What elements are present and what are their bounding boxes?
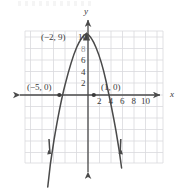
- vertex-label: (−2, 9): [41, 33, 66, 42]
- figure-container: 10 8 6 4 2 2 4 6 8 10 (−2, 9) (−5, 0) (1…: [0, 0, 189, 189]
- x-tick-2: 2: [97, 97, 102, 106]
- root-left-label: (−5, 0): [27, 83, 52, 92]
- coordinate-plane-graph: [0, 0, 189, 189]
- y-tick-8: 8: [81, 45, 86, 54]
- x-tick-6: 6: [120, 97, 125, 106]
- x-tick-10: 10: [141, 97, 150, 106]
- y-tick-2: 2: [81, 79, 86, 88]
- y-axis-label: y: [84, 7, 88, 16]
- x-axis-label: x: [170, 90, 174, 99]
- x-tick-8: 8: [132, 97, 137, 106]
- root-right-label: (1, 0): [101, 83, 121, 92]
- y-tick-4: 4: [81, 68, 86, 77]
- x-tick-4: 4: [109, 97, 114, 106]
- root-left-dot: [57, 93, 61, 97]
- y-tick-6: 6: [81, 56, 86, 65]
- root-right-dot: [92, 93, 96, 97]
- y-tick-10: 10: [78, 33, 87, 42]
